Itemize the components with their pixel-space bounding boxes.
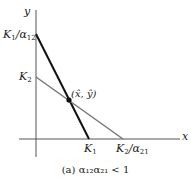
k2-label: K2 <box>19 71 32 84</box>
species-2-isocline <box>36 77 123 139</box>
k2-over-alpha21-label: K2/α21 <box>116 143 149 156</box>
y-axis-label: y <box>24 6 30 17</box>
figure-caption: (a) α₁₂α₂₁ < 1 <box>0 164 191 175</box>
species-1-isocline <box>36 34 89 139</box>
k1-over-alpha12-label: K1/α12 <box>3 29 36 42</box>
x-axis-label: x <box>182 131 188 142</box>
k1-label: K1 <box>84 143 97 156</box>
equilibrium-label: (x̂, ŷ) <box>71 89 96 99</box>
